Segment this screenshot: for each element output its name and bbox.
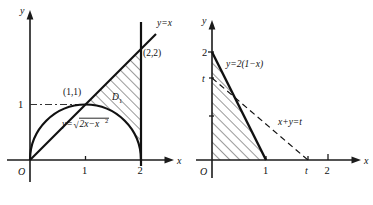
right-panel: y x O 2 t 1 t 2 y=2(1−x) x+y=t xyxy=(196,15,369,178)
left-panel: y x O 1 2 1 y=x (2,2) (1,1) D 1 y= √ 2x−… xyxy=(7,5,182,182)
left-region-label-letter: D xyxy=(111,92,119,102)
left-y-axis-arrow xyxy=(27,10,34,20)
right-label-x-plus-y-equals-t: x+y=t xyxy=(277,117,302,127)
right-y-axis-label: y xyxy=(201,15,207,26)
right-y-axis-arrow xyxy=(209,20,216,30)
right-x-tick-label-2: 2 xyxy=(325,165,330,176)
left-x-tick-label-2: 2 xyxy=(138,165,143,176)
right-x-tick-label-t: t xyxy=(305,165,308,176)
math-figure-container: y x O 1 2 1 y=x (2,2) (1,1) D 1 y= √ 2x−… xyxy=(0,0,373,205)
left-x-tick-label-1: 1 xyxy=(82,165,87,176)
right-y-tick-label-t: t xyxy=(202,73,205,84)
semicircle-eq-exponent: 2 xyxy=(105,117,108,124)
right-origin-label: O xyxy=(200,166,207,177)
semicircle-eq-lhs: y= xyxy=(61,119,73,129)
left-y-axis-label: y xyxy=(19,5,25,16)
right-label-line-equation: y=2(1−x) xyxy=(225,59,263,70)
right-x-tick-label-1: 1 xyxy=(263,165,268,176)
left-label-point-2-2: (2,2) xyxy=(143,48,161,59)
semicircle-eq-radicand: 2x−x xyxy=(80,119,100,129)
left-y-tick-label-1: 1 xyxy=(18,99,23,110)
right-x-axis-label: x xyxy=(363,155,369,166)
left-label-semicircle-equation: y= √ 2x−x 2 xyxy=(61,117,109,131)
left-label-line-y-equals-x: y=x xyxy=(156,18,173,28)
right-y-tick-label-2: 2 xyxy=(202,47,207,58)
left-label-point-1-1: (1,1) xyxy=(63,87,81,98)
left-x-axis-arrow xyxy=(165,157,175,164)
left-region-label-subscript: 1 xyxy=(119,97,122,104)
left-origin-label: O xyxy=(18,166,25,177)
left-x-axis-label: x xyxy=(176,155,182,166)
right-x-axis-arrow xyxy=(352,157,362,164)
figure-svg: y x O 1 2 1 y=x (2,2) (1,1) D 1 y= √ 2x−… xyxy=(0,0,373,205)
